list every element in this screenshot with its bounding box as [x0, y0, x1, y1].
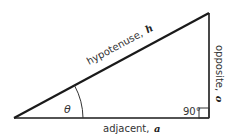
angle-arc [75, 86, 84, 119]
right-angle-label: 90° [183, 106, 201, 117]
opposite-label: opposite, o [214, 45, 225, 103]
hypotenuse-side [14, 13, 209, 118]
right-triangle-diagram: θ 90° adjacent, a hypotenuse, h opposite… [0, 0, 236, 139]
angle-theta-label: θ [64, 103, 71, 116]
adjacent-label: adjacent, a [103, 123, 160, 134]
